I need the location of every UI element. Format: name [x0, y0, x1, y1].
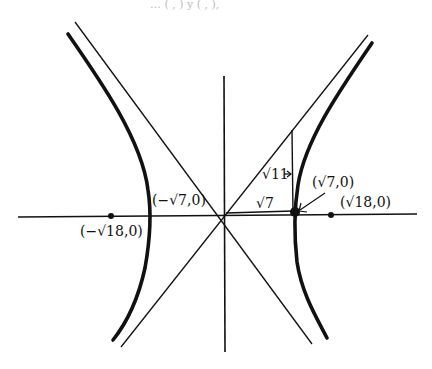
- right-vertex-label: (√7,0): [312, 174, 354, 190]
- triangle-vertical-leg: [292, 130, 293, 213]
- hyperbola-left-branch: [68, 34, 150, 340]
- top-text-fragment: … ( , ) y ( , ),: [150, 0, 219, 11]
- right-vertex-point: [290, 207, 300, 217]
- y-axis: [224, 76, 225, 352]
- triangle-base-label: √7: [256, 195, 274, 211]
- vertex-pointer-arrow: [300, 193, 325, 210]
- right-focus-label: (√18,0): [340, 194, 391, 210]
- asymptote-positive-slope: [121, 35, 368, 347]
- right-focus-point: [328, 212, 334, 218]
- left-focus-point: [108, 213, 114, 219]
- asymptote-negative-slope: [75, 22, 312, 344]
- left-focus-label: (−√18,0): [80, 223, 143, 239]
- hyperbola-diagram: … ( , ) y ( , ), (√7,0) (√18,0) (−√7,0) …: [0, 0, 432, 369]
- left-vertex-label: (−√7,0): [152, 192, 206, 208]
- triangle-base-leg: [226, 211, 293, 213]
- hyperbola-right-branch: [295, 43, 372, 338]
- triangle-height-label: √11: [262, 166, 289, 182]
